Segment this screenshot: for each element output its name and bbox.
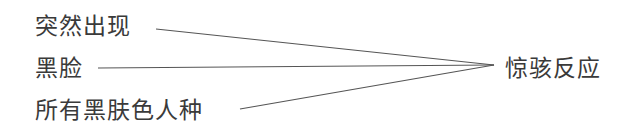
connector-line-2: [98, 65, 494, 68]
connector-line-3: [240, 65, 494, 109]
connector-line-1: [156, 29, 494, 65]
connector-lines: [0, 0, 644, 131]
